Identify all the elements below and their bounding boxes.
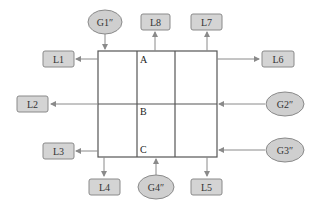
output-l8: L8 <box>141 14 170 30</box>
input-label: G3″ <box>277 145 293 156</box>
cell-label-b: B <box>140 106 147 117</box>
output-l1: L1 <box>43 51 74 67</box>
input-g4: G4″ <box>138 175 174 199</box>
flow-diagram: A B C L1 L2 L3 L4 <box>0 0 311 209</box>
output-l6: L6 <box>262 51 294 67</box>
input-g2: G2″ <box>266 92 304 116</box>
output-label: L7 <box>201 17 212 28</box>
output-l7: L7 <box>191 14 222 30</box>
output-l5: L5 <box>191 179 222 195</box>
input-label: G4″ <box>148 182 164 193</box>
cell-label-a: A <box>140 54 148 65</box>
input-g1: G1″ <box>88 10 122 34</box>
output-label: L6 <box>272 54 283 65</box>
output-label: L4 <box>99 182 110 193</box>
output-l2: L2 <box>17 96 48 112</box>
input-label: G1″ <box>97 17 113 28</box>
input-label: G2″ <box>277 99 293 110</box>
output-label: L1 <box>53 54 64 65</box>
output-l4: L4 <box>89 179 120 195</box>
output-label: L3 <box>53 146 64 157</box>
cell-label-c: C <box>140 144 147 155</box>
output-label: L5 <box>201 182 212 193</box>
output-label: L2 <box>27 99 38 110</box>
central-grid <box>98 51 217 157</box>
input-g3: G3″ <box>266 138 304 162</box>
output-l3: L3 <box>43 143 74 159</box>
output-label: L8 <box>150 17 161 28</box>
